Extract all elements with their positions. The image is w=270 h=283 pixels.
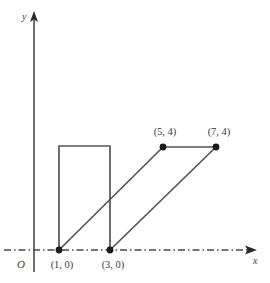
y-axis xyxy=(30,11,38,272)
point-label-3-0: (3, 0) xyxy=(102,259,125,271)
segment-1-0-to-5-4 xyxy=(59,147,163,250)
figure-canvas: y x O (1, 0) (3, 0) (5, 4) (7, 4) xyxy=(0,0,270,283)
parallelogram-shape xyxy=(59,147,216,250)
point-dot-7-4 xyxy=(213,144,220,151)
x-axis xyxy=(4,246,257,255)
origin-label: O xyxy=(17,258,25,270)
segment-3-0-to-7-4 xyxy=(110,147,216,250)
point-label-7-4: (7, 4) xyxy=(208,126,231,138)
point-label-1-0: (1, 0) xyxy=(51,259,74,271)
vertex-points xyxy=(56,144,220,254)
point-dot-5-4 xyxy=(160,144,167,151)
rectangle-outline xyxy=(59,146,110,250)
coordinate-figure: y x O (1, 0) (3, 0) (5, 4) (7, 4) xyxy=(0,0,270,283)
rectangle-shape xyxy=(59,146,110,250)
x-axis-label: x xyxy=(252,255,258,266)
point-label-5-4: (5, 4) xyxy=(154,126,177,138)
y-axis-label: y xyxy=(21,11,27,22)
point-dot-1-0 xyxy=(56,247,63,254)
point-dot-3-0 xyxy=(107,247,114,254)
